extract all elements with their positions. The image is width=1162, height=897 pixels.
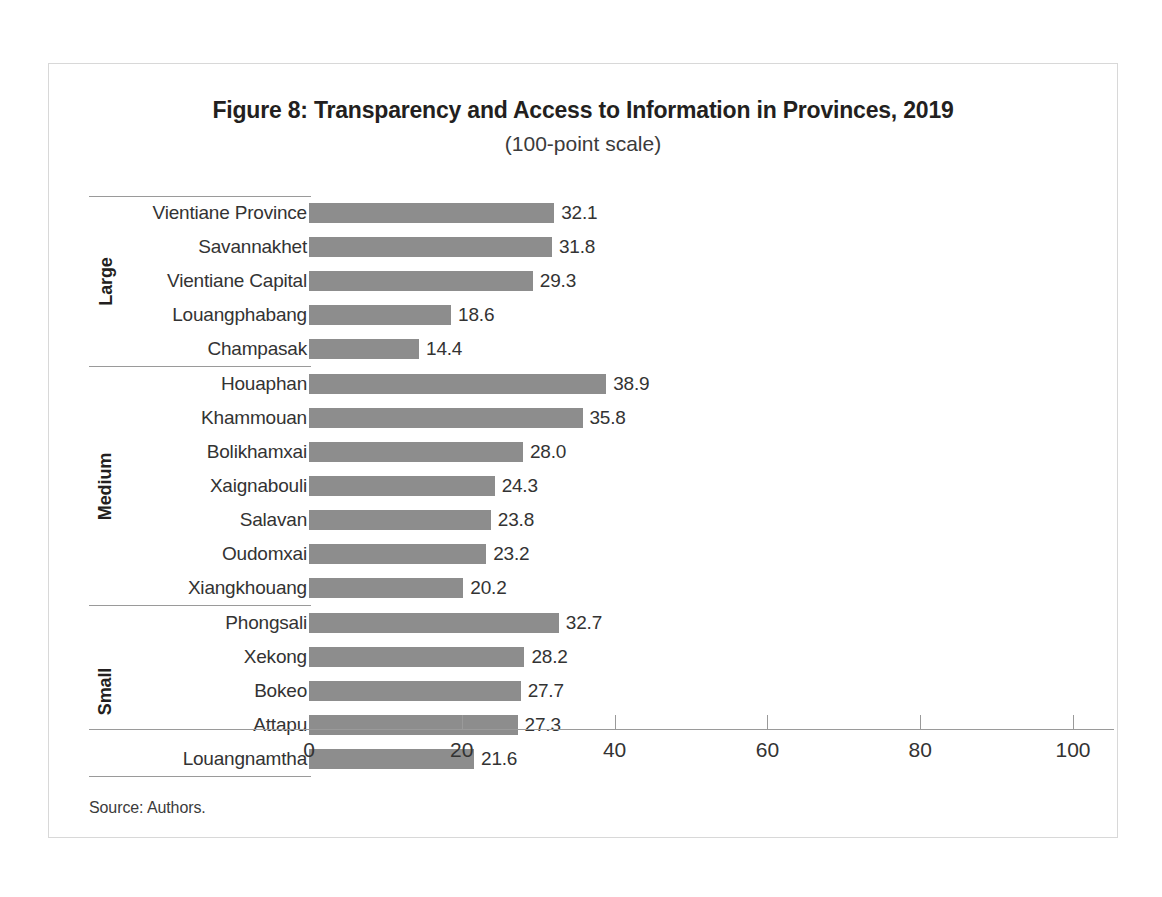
bar-row: Champasak14.4 [89, 332, 1114, 366]
bar [309, 339, 419, 359]
bar [309, 544, 486, 564]
bar-row: Khammouan35.8 [89, 401, 1114, 435]
x-axis-tick [615, 715, 616, 729]
bar-row: Xiangkhouang20.2 [89, 571, 1114, 605]
bar-value-label: 27.7 [528, 674, 564, 708]
bar-row: Houaphan38.9 [89, 367, 1114, 401]
bar-value-label: 23.2 [493, 537, 529, 571]
bar-row: Xekong28.2 [89, 640, 1114, 674]
bar-track: 27.7 [309, 674, 1114, 708]
category-label: Bolikhamxai [123, 435, 307, 469]
x-axis-line [89, 729, 1114, 730]
category-label: Houaphan [123, 367, 307, 401]
category-label: Bokeo [123, 674, 307, 708]
bar-value-label: 14.4 [426, 332, 462, 366]
category-label: Xekong [123, 640, 307, 674]
x-axis-tick [1073, 715, 1074, 729]
bar-track: 35.8 [309, 401, 1114, 435]
bar-row: Salavan23.8 [89, 503, 1114, 537]
category-label: Khammouan [123, 401, 307, 435]
category-label: Louangphabang [123, 298, 307, 332]
bar-track: 32.7 [309, 606, 1114, 640]
bar [309, 271, 533, 291]
bar-track: 28.2 [309, 640, 1114, 674]
bar-row: Phongsali32.7 [89, 606, 1114, 640]
category-label: Vientiane Province [123, 196, 307, 230]
bar-value-label: 18.6 [458, 298, 494, 332]
x-axis-tick-label: 60 [756, 738, 779, 762]
bar-group-rows: Houaphan38.9Khammouan35.8Bolikhamxai28.0… [89, 367, 1114, 605]
source-note: Source: Authors. [89, 799, 206, 817]
bar-value-label: 38.9 [613, 367, 649, 401]
bar [309, 613, 559, 633]
bar-group: LargeVientiane Province32.1Savannakhet31… [89, 196, 1114, 366]
bar-value-label: 35.8 [590, 401, 626, 435]
bar-row: Vientiane Capital29.3 [89, 264, 1114, 298]
x-axis-tick-label: 0 [303, 738, 315, 762]
bar [309, 374, 606, 394]
category-label: Phongsali [123, 606, 307, 640]
bar-row: Xaignabouli24.3 [89, 469, 1114, 503]
x-axis-tick [767, 715, 768, 729]
bar-track: 20.2 [309, 571, 1114, 605]
plot-area: LargeVientiane Province32.1Savannakhet31… [89, 196, 1114, 731]
bar-row: Vientiane Province32.1 [89, 196, 1114, 230]
bar-value-label: 32.7 [566, 606, 602, 640]
bar-group-rows: Vientiane Province32.1Savannakhet31.8Vie… [89, 196, 1114, 366]
bar-track: 31.8 [309, 230, 1114, 264]
x-axis-ticks [309, 715, 1114, 729]
bar [309, 510, 491, 530]
title-block: Figure 8: Transparency and Access to Inf… [49, 97, 1117, 156]
bar-track: 23.8 [309, 503, 1114, 537]
category-label: Savannakhet [123, 230, 307, 264]
bar-track: 23.2 [309, 537, 1114, 571]
group-separator [89, 776, 311, 777]
bar [309, 203, 554, 223]
bar-track: 38.9 [309, 367, 1114, 401]
bar-row: Oudomxai23.2 [89, 537, 1114, 571]
bar-groups: LargeVientiane Province32.1Savannakhet31… [89, 196, 1114, 777]
category-label: Louangnamtha [123, 742, 307, 776]
category-label: Attapu [123, 708, 307, 742]
page-title: Figure 8: Transparency and Access to Inf… [49, 97, 1117, 125]
bar-value-label: 23.8 [498, 503, 534, 537]
bar-track: 24.3 [309, 469, 1114, 503]
category-label: Champasak [123, 332, 307, 366]
bar [309, 442, 523, 462]
x-axis-tick-label: 20 [450, 738, 473, 762]
bar-row: Louangphabang18.6 [89, 298, 1114, 332]
bar [309, 237, 552, 257]
bar [309, 305, 451, 325]
bar [309, 476, 495, 496]
bar-value-label: 29.3 [540, 264, 576, 298]
chart-subtitle: (100-point scale) [49, 131, 1117, 156]
bar-row: Bokeo27.7 [89, 674, 1114, 708]
bar-track: 14.4 [309, 332, 1114, 366]
bar-value-label: 28.2 [531, 640, 567, 674]
x-axis-tick-label: 100 [1055, 738, 1090, 762]
x-axis-tick-label: 80 [909, 738, 932, 762]
category-label: Xiangkhouang [123, 571, 307, 605]
bar-row: Bolikhamxai28.0 [89, 435, 1114, 469]
bar [309, 647, 524, 667]
x-axis-tick-label: 40 [603, 738, 626, 762]
bar [309, 578, 463, 598]
bar [309, 408, 583, 428]
bar-value-label: 24.3 [502, 469, 538, 503]
bar-value-label: 20.2 [470, 571, 506, 605]
bar-value-label: 32.1 [561, 196, 597, 230]
bar-track: 28.0 [309, 435, 1114, 469]
bar-row: Savannakhet31.8 [89, 230, 1114, 264]
category-label: Salavan [123, 503, 307, 537]
bar-value-label: 28.0 [530, 435, 566, 469]
x-axis-tick-labels: 020406080100 [309, 738, 1114, 768]
category-label: Vientiane Capital [123, 264, 307, 298]
bar-group: MediumHouaphan38.9Khammouan35.8Bolikhamx… [89, 367, 1114, 605]
bar-value-label: 31.8 [559, 230, 595, 264]
x-axis-tick [462, 715, 463, 729]
bar-track: 18.6 [309, 298, 1114, 332]
bar [309, 681, 521, 701]
bar-track: 29.3 [309, 264, 1114, 298]
category-label: Oudomxai [123, 537, 307, 571]
x-axis-tick [920, 715, 921, 729]
